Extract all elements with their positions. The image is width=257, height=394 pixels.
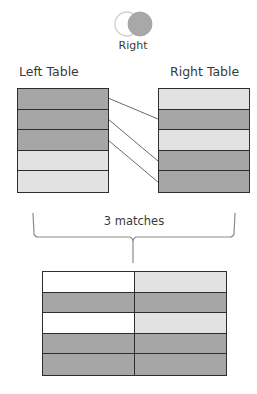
right-table-row: [159, 110, 249, 131]
right-table-title: Right Table: [170, 64, 239, 79]
left-table-cell: [18, 89, 108, 109]
left-table: [17, 88, 109, 193]
venn-right-circle: [128, 12, 152, 36]
result-table: [42, 271, 227, 376]
venn-icon: [115, 12, 152, 36]
result-table-cell: [43, 354, 134, 375]
right-table-row: [159, 130, 249, 151]
result-table-row: [43, 313, 226, 334]
result-table-cell: [134, 313, 226, 333]
result-table-cell: [134, 293, 226, 313]
left-table-cell: [18, 171, 108, 192]
result-table-row: [43, 272, 226, 293]
left-table-row: [18, 130, 108, 151]
right-table-cell: [159, 130, 249, 150]
result-table-cell: [134, 334, 226, 354]
result-table-cell: [134, 272, 226, 292]
connector-line: [108, 119, 158, 161]
right-table-cell: [159, 171, 249, 192]
right-table-row: [159, 89, 249, 110]
left-table-row: [18, 171, 108, 192]
right-table-row: [159, 171, 249, 192]
result-table-row: [43, 293, 226, 314]
left-table-row: [18, 110, 108, 131]
result-table-cell: [43, 293, 134, 313]
connector-line: [108, 140, 158, 182]
result-table-cell: [43, 272, 134, 292]
left-table-row: [18, 89, 108, 110]
result-table-cell: [43, 313, 134, 333]
left-table-row: [18, 151, 108, 172]
right-table-row: [159, 151, 249, 172]
connector-line: [108, 98, 158, 119]
match-connectors: [108, 98, 158, 182]
right-table: [158, 88, 250, 193]
result-table-row: [43, 354, 226, 375]
right-table-cell: [159, 110, 249, 130]
result-table-cell: [134, 354, 226, 375]
right-table-cell: [159, 89, 249, 109]
left-table-title: Left Table: [19, 64, 79, 79]
venn-label: Right: [103, 39, 163, 52]
result-table-cell: [43, 334, 134, 354]
left-table-cell: [18, 130, 108, 150]
left-table-cell: [18, 110, 108, 130]
right-table-cell: [159, 151, 249, 171]
brace-label: 3 matches: [100, 214, 168, 228]
result-table-row: [43, 334, 226, 355]
left-table-cell: [18, 151, 108, 171]
